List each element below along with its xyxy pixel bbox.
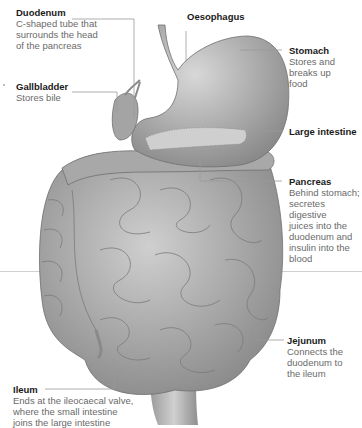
label-ileum: Ileum Ends at the ileocaecal valve, wher… [13, 384, 133, 428]
label-title: Gallbladder [16, 81, 68, 92]
label-desc-line: secretes digestive [289, 198, 362, 220]
label-title: Pancreas [289, 176, 362, 187]
label-desc-line: insulin into the [289, 242, 362, 253]
label-desc-line: Ends at the ileocaecal valve, [13, 395, 133, 406]
label-oesophagus: Oesophagus [187, 11, 245, 22]
label-desc-line: food [289, 78, 335, 89]
label-desc-line: joins the large intestine [13, 417, 133, 428]
label-title: Duodenum [16, 7, 98, 18]
label-pancreas: Pancreas Behind stomach; secretes digest… [289, 176, 362, 264]
label-desc-line: Stores bile [16, 92, 68, 103]
intestines-shape [39, 148, 282, 395]
gallbladder-leader [72, 92, 117, 112]
label-desc-line: C-shaped tube that [16, 18, 98, 29]
label-desc-line: Connects the [287, 346, 343, 357]
label-title: Ileum [13, 384, 133, 395]
label-desc-line: Behind stomach; [289, 187, 362, 198]
label-desc-line: where the small intestine [13, 406, 133, 417]
label-title: Stomach [289, 45, 335, 56]
label-stomach: Stomach Stores and breaks up food [289, 45, 335, 89]
label-desc-line: of the pancreas [16, 40, 98, 51]
label-gallbladder: Gallbladder Stores bile [16, 81, 68, 103]
label-desc-line: breaks up [289, 67, 335, 78]
label-desc-line: blood [289, 253, 362, 264]
label-duodenum: Duodenum C-shaped tube that surrounds th… [16, 7, 98, 51]
label-desc-line: duodenum to [287, 357, 343, 368]
label-jejunum: Jejunum Connects the duodenum to the ile… [287, 335, 343, 379]
label-desc-line: surrounds the head [16, 29, 98, 40]
label-title: Jejunum [287, 335, 343, 346]
label-large-intestine: Large intestine [289, 126, 357, 137]
label-desc-line: the ileum [287, 368, 343, 379]
label-desc-line: Stores and [289, 56, 335, 67]
label-title: Large intestine [289, 126, 357, 137]
label-title: Oesophagus [187, 11, 245, 22]
label-desc-line: duodenum and [289, 231, 362, 242]
label-desc-line: juices into the [289, 220, 362, 231]
stray-dot [3, 84, 5, 86]
